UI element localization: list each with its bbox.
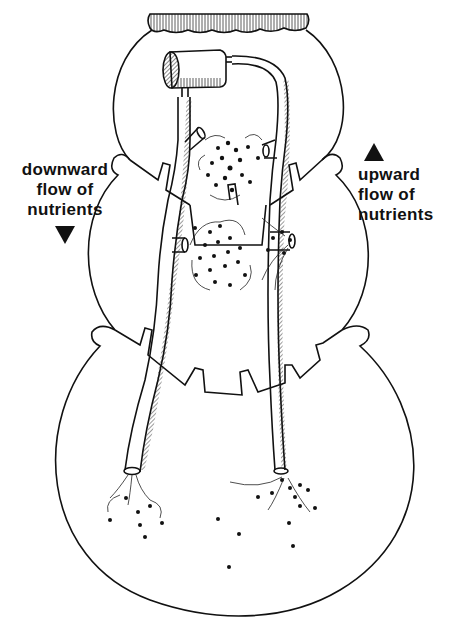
up-arrow-icon	[364, 143, 384, 161]
upward-label-line-3: nutrients	[358, 205, 458, 225]
downward-label-line-1: downward	[6, 160, 124, 180]
pot-outline	[56, 14, 414, 616]
right-tube	[232, 56, 295, 474]
down-arrow-icon	[55, 226, 75, 244]
bottom-chamber	[56, 326, 414, 616]
upward-label-line-2: flow of	[358, 185, 458, 205]
upward-label-line-1: upward	[358, 165, 458, 185]
canister	[163, 50, 232, 97]
top-chamber	[113, 30, 343, 160]
downward-label-line-2: flow of	[6, 180, 124, 200]
nutrient-flow-diagram	[0, 0, 458, 623]
top-rim	[148, 14, 309, 33]
downward-label-line-3: nutrients	[6, 200, 124, 220]
upward-flow-label: upward flow of nutrients	[358, 165, 458, 225]
downward-flow-label: downward flow of nutrients	[6, 160, 124, 244]
left-tube	[124, 97, 207, 475]
middle-chamber	[88, 154, 368, 330]
